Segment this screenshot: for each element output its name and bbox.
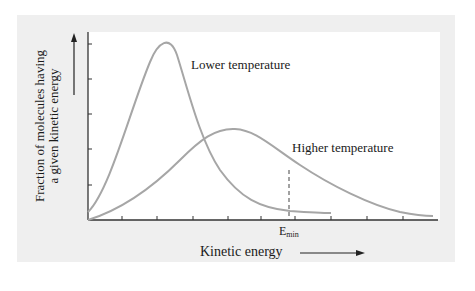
y-axis-label: Fraction of molecules having a given kin… — [33, 26, 61, 226]
emin-subscript: min — [286, 230, 298, 239]
y-axis-label-line1: Fraction of molecules having — [33, 26, 47, 226]
emin-label: Emin — [279, 224, 299, 239]
y-arrow-icon — [71, 33, 77, 42]
x-axis-label: Kinetic energy — [200, 244, 283, 260]
lower-temperature-label: Lower temperature — [191, 57, 290, 73]
y-axis-label-line2: a given kinetic energy — [47, 26, 61, 226]
x-arrow-icon — [356, 250, 365, 256]
higher-temperature-label: Higher temperature — [292, 140, 393, 156]
